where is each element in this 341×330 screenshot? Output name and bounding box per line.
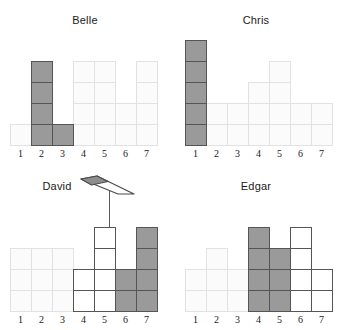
bar-column [290, 202, 311, 312]
grid-cell [31, 124, 53, 146]
grid-cell [31, 248, 53, 270]
bar-column [136, 202, 157, 312]
grid-cell [290, 290, 312, 312]
grid-cell [269, 103, 291, 125]
bar-column [290, 36, 311, 146]
x-axis-tick-label: 5 [269, 314, 290, 325]
bar-column [248, 36, 269, 146]
chart-title-chris: Chris [171, 14, 341, 26]
grid-cell [311, 269, 333, 291]
chart-panel-belle: Belle 1234567 [0, 14, 170, 164]
x-axis-tick-label: 7 [136, 314, 157, 325]
grid-cell [136, 61, 158, 83]
x-axis-tick-label: 5 [94, 314, 115, 325]
grid-cell [269, 82, 291, 104]
x-axis-tick-label: 2 [31, 314, 52, 325]
grid-cell [10, 269, 32, 291]
bar-column [10, 202, 31, 312]
grid-cell [185, 269, 207, 291]
grid-cell [185, 124, 207, 146]
grid-cell [94, 248, 116, 270]
x-axis-tick-label: 4 [73, 314, 94, 325]
bar-column [311, 36, 332, 146]
grid-cell [227, 124, 249, 146]
x-axis-tick-label: 2 [206, 314, 227, 325]
bar-column [185, 202, 206, 312]
x-axis-tick-label: 2 [206, 148, 227, 159]
x-axis-tick-label: 6 [115, 148, 136, 159]
chart-title-belle: Belle [0, 14, 170, 26]
grid-cell [52, 124, 74, 146]
grid-cell [185, 61, 207, 83]
grid-cell [115, 269, 137, 291]
grid-cell [136, 82, 158, 104]
grid-cell [52, 269, 74, 291]
x-axis-tick-label: 5 [94, 148, 115, 159]
bar-column [73, 202, 94, 312]
x-axis-edgar: 1234567 [185, 314, 337, 330]
chart-title-edgar: Edgar [171, 180, 341, 192]
grid-cell [290, 103, 312, 125]
grid-cell [115, 103, 137, 125]
grid-cell [52, 290, 74, 312]
grid-cell [227, 290, 249, 312]
bar-column [206, 202, 227, 312]
grid-cell [290, 227, 312, 249]
bar-column [185, 36, 206, 146]
grid-cell [269, 124, 291, 146]
grid-cell [227, 103, 249, 125]
grid-cell [73, 82, 95, 104]
grid-cell [311, 124, 333, 146]
bar-column [115, 202, 136, 312]
bar-column [31, 202, 52, 312]
grid-cell [311, 103, 333, 125]
chart-panel-david: David 1234567 [0, 180, 170, 330]
grid-cell [115, 124, 137, 146]
grid-cell [290, 269, 312, 291]
grid-cell [31, 82, 53, 104]
grid-cell [269, 248, 291, 270]
grid-cell [136, 290, 158, 312]
x-axis-belle: 1234567 [10, 148, 162, 164]
grid-cell [31, 61, 53, 83]
x-axis-tick-label: 6 [290, 314, 311, 325]
grid-cell [248, 290, 270, 312]
grid-cell [52, 248, 74, 270]
grid-cell [31, 290, 53, 312]
grid-cell [73, 124, 95, 146]
x-axis-tick-label: 1 [185, 148, 206, 159]
bar-column [115, 36, 136, 146]
chart-panel-chris: Chris 1234567 [171, 14, 341, 164]
x-axis-tick-label: 1 [10, 314, 31, 325]
grid-cell [206, 290, 228, 312]
grid-cell [248, 248, 270, 270]
x-axis-chris: 1234567 [185, 148, 337, 164]
grid-cell [94, 103, 116, 125]
x-axis-tick-label: 7 [311, 314, 332, 325]
grid-cell [136, 103, 158, 125]
grid-cell [94, 124, 116, 146]
grid-cell [269, 290, 291, 312]
bar-column [94, 36, 115, 146]
chart-title-david: David [0, 180, 142, 192]
grid-cell [73, 269, 95, 291]
grid-cell [31, 269, 53, 291]
grid-cell [73, 61, 95, 83]
grid-cell [290, 124, 312, 146]
grid-cell [10, 290, 32, 312]
bar-column [227, 202, 248, 312]
chart-plot-david [10, 202, 162, 312]
grid-cell [206, 103, 228, 125]
grid-cell [311, 290, 333, 312]
grid-cell [136, 248, 158, 270]
bar-column [311, 202, 332, 312]
grid-cell [115, 290, 137, 312]
grid-cell [185, 40, 207, 62]
grid-cell [73, 103, 95, 125]
x-axis-david: 1234567 [10, 314, 162, 330]
grid-cell [206, 248, 228, 270]
bar-column [31, 36, 52, 146]
grid-cell [290, 248, 312, 270]
grid-cell [248, 269, 270, 291]
bar-column [73, 36, 94, 146]
